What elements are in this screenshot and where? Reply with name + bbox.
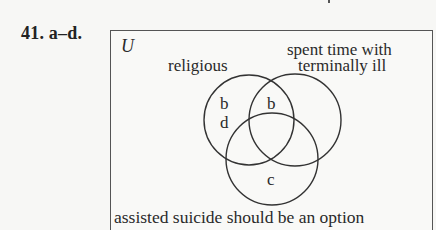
venn-diagram <box>0 0 436 230</box>
region-religious-only-d: d <box>220 114 229 131</box>
region-religious-and-terminally-ill-b: b <box>267 95 276 112</box>
region-religious-only-b: b <box>220 95 229 112</box>
circle-spent-time-terminally-ill <box>249 74 341 166</box>
universe-label: U <box>121 38 134 55</box>
set-label-religious: religious <box>168 57 228 74</box>
region-assisted-suicide-only-c: c <box>267 171 275 188</box>
set-label-assisted-suicide: assisted suicide should be an option <box>114 209 364 226</box>
set-label-spent-time-line2: terminally ill <box>298 57 386 74</box>
